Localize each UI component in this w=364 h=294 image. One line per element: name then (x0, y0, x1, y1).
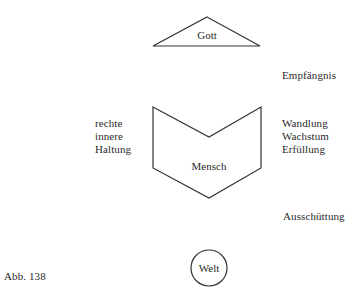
left-line-1: rechte (95, 117, 131, 130)
mensch-label: Mensch (179, 160, 239, 173)
ausschuettung-label: Ausschüttung (283, 210, 345, 223)
welt-label: Welt (189, 262, 229, 275)
right-annotation: Wandlung Wachstum Erfüllung (282, 117, 329, 156)
right-line-2: Wachstum (282, 130, 329, 143)
right-line-1: Wandlung (282, 117, 329, 130)
left-line-2: innere (95, 130, 131, 143)
figure-caption: Abb. 138 (4, 270, 46, 283)
left-line-3: Haltung (95, 143, 131, 156)
right-line-3: Erfüllung (282, 143, 329, 156)
mensch-chevron (153, 107, 261, 198)
gott-label: Gott (187, 29, 227, 42)
empfaengnis-label: Empfängnis (282, 69, 336, 82)
left-annotation: rechte innere Haltung (95, 117, 131, 156)
